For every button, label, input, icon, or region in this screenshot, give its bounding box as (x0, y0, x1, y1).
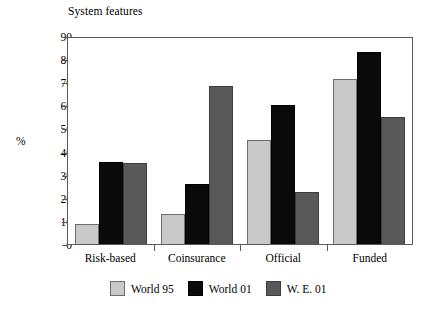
x-axis-tick-mark (154, 245, 155, 251)
bar[interactable] (99, 162, 123, 244)
chart-title: System features (68, 4, 143, 18)
legend-label: W. E. 01 (287, 282, 327, 296)
x-axis-tick-mark (240, 245, 241, 251)
bar-group (240, 38, 326, 244)
legend-entry[interactable]: World 95 (110, 281, 174, 296)
plot-area (67, 37, 413, 245)
legend-entry[interactable]: W. E. 01 (266, 281, 327, 296)
bar-group (68, 38, 154, 244)
y-axis-tick-mark (62, 245, 68, 246)
bar[interactable] (161, 214, 185, 244)
bar[interactable] (185, 184, 209, 244)
x-axis-tick-label: Official (240, 251, 327, 265)
bar-group (326, 38, 412, 244)
x-axis-tick-mark (327, 245, 328, 251)
chart-legend: World 95World 01W. E. 01 (110, 281, 327, 296)
bars-layer (68, 38, 412, 244)
bar[interactable] (333, 79, 357, 244)
x-axis-tick-label: Coinsurance (154, 251, 241, 265)
bar[interactable] (209, 86, 233, 244)
legend-label: World 01 (209, 282, 252, 296)
legend-swatch (188, 281, 203, 296)
bar[interactable] (75, 224, 99, 244)
bar[interactable] (381, 117, 405, 244)
x-axis-tick-label: Risk-based (67, 251, 154, 265)
legend-label: World 95 (131, 282, 174, 296)
x-axis-tick-label: Funded (327, 251, 414, 265)
bar-group (154, 38, 240, 244)
bar[interactable] (271, 105, 295, 244)
bar[interactable] (123, 163, 147, 244)
bar-chart: System features % 9080706050403020100 Ri… (0, 0, 433, 313)
legend-swatch (266, 281, 281, 296)
legend-entry[interactable]: World 01 (188, 281, 252, 296)
bar[interactable] (295, 192, 319, 244)
bar[interactable] (357, 52, 381, 244)
bar[interactable] (247, 140, 271, 244)
legend-swatch (110, 281, 125, 296)
